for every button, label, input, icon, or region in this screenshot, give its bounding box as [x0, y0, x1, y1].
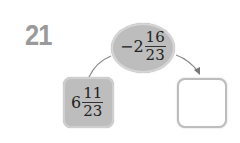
input-value: 6 11 23 [71, 86, 103, 119]
operator-denominator: 23 [145, 48, 166, 63]
operator-whole: 2 [133, 37, 143, 56]
left-connector-line [89, 56, 111, 77]
input-whole: 6 [71, 93, 81, 112]
operator-sign: − [120, 37, 133, 56]
input-denominator: 23 [82, 104, 103, 119]
operator-numerator: 16 [145, 30, 166, 45]
operator-fraction: 16 23 [145, 30, 166, 63]
input-numerator: 11 [82, 86, 103, 101]
answer-box[interactable] [177, 78, 227, 128]
operator-value: − 2 16 23 [120, 30, 166, 63]
input-fraction: 11 23 [82, 86, 103, 119]
